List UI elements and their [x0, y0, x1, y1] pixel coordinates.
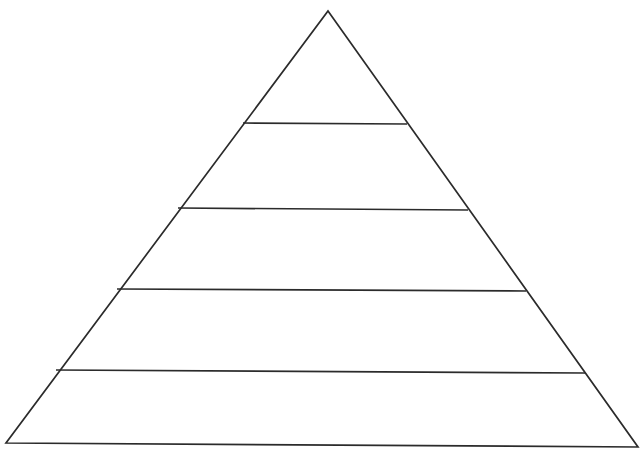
pyramid-diagram — [0, 0, 643, 471]
tier-divider-1 — [243, 123, 407, 124]
pyramid-tier-4[interactable] — [56, 289, 585, 373]
pyramid-tier-3[interactable] — [117, 208, 526, 291]
diagram-canvas — [0, 0, 643, 471]
pyramid-tier-5-base[interactable] — [6, 370, 638, 447]
